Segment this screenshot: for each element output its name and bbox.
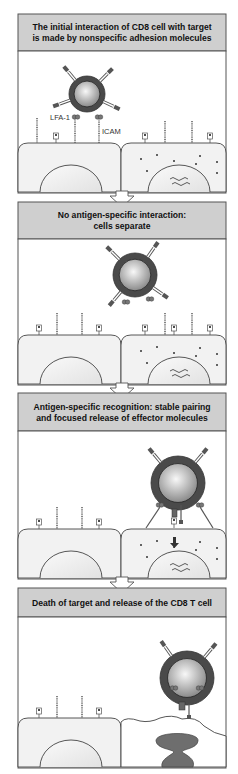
viral-particle	[195, 549, 197, 551]
viral-particle	[216, 558, 218, 560]
lfa1-lobe	[199, 686, 203, 690]
panel-no-antigen-separate: No antigen-specific interaction:cells se…	[18, 202, 226, 385]
panel-antigen-recognition: Antigen-specific recognition: stable pai…	[18, 393, 226, 579]
viral-particle	[146, 362, 148, 364]
cd8-killing-diagram: The initial interaction of CD8 cell with…	[0, 0, 238, 774]
lfa1-lobe	[75, 115, 79, 119]
viral-particle	[173, 352, 175, 354]
viral-particle	[140, 350, 142, 352]
lfa1-molecule	[95, 115, 103, 119]
viral-particle	[146, 170, 148, 172]
uninfected-cell	[18, 529, 121, 578]
lfa1-molecule	[146, 297, 154, 301]
lfa1-molecule	[72, 115, 80, 119]
lfa1-molecule	[122, 300, 130, 304]
lfa1-lobe	[159, 503, 163, 507]
tcr-released	[179, 702, 185, 710]
virus-infected-target-cell	[121, 529, 226, 578]
viral-particle	[199, 155, 201, 157]
cd8-t-cell	[69, 76, 105, 112]
peptide-dot	[98, 326, 100, 328]
peptide-dot	[98, 709, 100, 711]
peptide-dot	[173, 519, 175, 521]
panel-header-text: and focused release of effector molecule…	[36, 413, 208, 423]
panel-header-text: Death of target and release of the CD8 T…	[32, 598, 212, 608]
cd8-head	[187, 715, 191, 719]
viral-particle	[140, 158, 142, 160]
lfa1-molecule	[170, 686, 178, 690]
peptide-dot	[209, 326, 211, 328]
viral-particle	[156, 154, 158, 156]
icam-label: ICAM	[102, 127, 121, 136]
lfa1-lobe	[125, 300, 129, 304]
lfa1-molecule	[156, 503, 164, 507]
lfa1-molecule	[196, 503, 204, 507]
viral-particle	[216, 161, 218, 163]
peptide-dot	[144, 326, 146, 328]
lfa1-lobe	[199, 503, 203, 507]
viral-particle	[156, 540, 158, 542]
peptide-dot	[209, 134, 211, 136]
viral-particle	[146, 556, 148, 558]
viral-particle	[216, 547, 218, 549]
panel-header-text: cells separate	[94, 221, 151, 231]
peptide-dot	[144, 134, 146, 136]
tcell-nucleus	[74, 81, 100, 107]
lfa1-lobe	[98, 115, 102, 119]
panel-header-text: Antigen-specific recognition: stable pai…	[33, 402, 210, 412]
virus-infected-target-cell	[121, 335, 226, 384]
peptide-dot	[55, 134, 57, 136]
viral-particle	[173, 160, 175, 162]
panel-target-death: Death of target and release of the CD8 T…	[18, 588, 226, 768]
lfa1-lobe	[149, 297, 153, 301]
viral-particle	[195, 355, 197, 357]
viral-particle	[199, 541, 201, 543]
lfa1-lobe	[173, 686, 177, 690]
uninfected-cell	[18, 143, 121, 192]
viral-particle	[140, 544, 142, 546]
viral-particle	[216, 353, 218, 355]
peptide-dot	[38, 326, 40, 328]
uninfected-cell	[18, 335, 121, 384]
peptide-dot	[173, 326, 175, 328]
tcell-nucleus	[159, 464, 198, 503]
panel-header-text: The initial interaction of CD8 cell with…	[32, 22, 211, 32]
panel-header-text: is made by nonspecific adhesion molecule…	[32, 33, 211, 43]
cd8-t-cell	[151, 456, 205, 510]
virus-infected-target-cell	[121, 143, 226, 192]
uninfected-cell	[18, 718, 121, 767]
peptide-dot	[98, 520, 100, 522]
panels-layer: The initial interaction of CD8 cell with…	[18, 14, 226, 768]
viral-particle	[216, 364, 218, 366]
panel-header-text: No antigen-specific interaction:	[58, 210, 187, 220]
viral-particle	[199, 347, 201, 349]
lfa1-molecule	[196, 686, 204, 690]
peptide-dot	[38, 709, 40, 711]
cd8-t-cell	[160, 651, 214, 705]
viral-particle	[216, 172, 218, 174]
tcr-engaged	[172, 509, 177, 517]
viral-particle	[156, 346, 158, 348]
peptide-dot	[38, 520, 40, 522]
panel-initial-adhesion: The initial interaction of CD8 cell with…	[18, 14, 226, 193]
viral-particle	[195, 163, 197, 165]
cd8-head	[179, 520, 183, 524]
tcell-nucleus	[119, 259, 151, 291]
lfa1-label: LFA-1	[50, 113, 70, 122]
cd8-t-cell	[113, 253, 157, 297]
tcell-nucleus	[168, 659, 207, 698]
